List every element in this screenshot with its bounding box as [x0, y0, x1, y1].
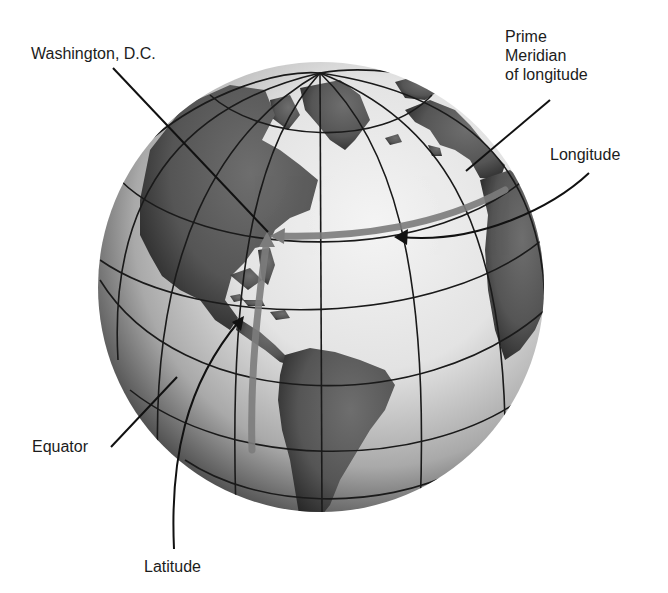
label-washington-dc: Washington, D.C.	[31, 44, 156, 63]
label-prime-meridian-line3: of longitude	[505, 65, 625, 84]
label-equator: Equator	[32, 437, 88, 456]
label-prime-meridian: Prime Meridian of longitude	[505, 27, 625, 84]
globe-illustration	[0, 0, 668, 593]
label-latitude: Latitude	[144, 557, 201, 576]
label-longitude: Longitude	[550, 145, 620, 164]
label-prime-meridian-line1: Prime	[505, 27, 625, 46]
globe-diagram: Washington, D.C. Prime Meridian of longi…	[0, 0, 668, 593]
label-prime-meridian-line2: Meridian	[505, 46, 625, 65]
